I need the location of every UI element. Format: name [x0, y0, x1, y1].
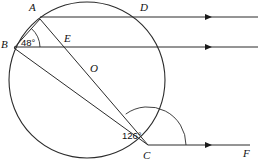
point-label-D: D: [140, 2, 148, 13]
point-label-C: C: [143, 150, 150, 161]
angle-label-B: 48°: [21, 38, 35, 48]
geometry-figure: A B C D E O F 48° 126°: [0, 0, 263, 165]
point-label-O: O: [90, 63, 98, 74]
angle-label-C: 126°: [122, 131, 142, 141]
point-label-E: E: [64, 33, 71, 44]
chord-A-C: [40, 19, 148, 145]
point-label-A: A: [29, 2, 36, 13]
point-label-F: F: [243, 148, 250, 159]
point-label-B: B: [1, 39, 8, 50]
